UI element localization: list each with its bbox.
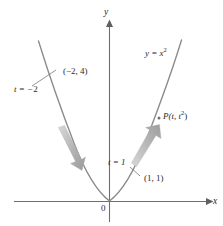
param-label-t-1: t = 1 [108, 158, 126, 167]
param-label-t-minus-2-text: t = − [14, 84, 33, 94]
figure-canvas [0, 0, 223, 226]
point-label-p-prefix: P(t, t [163, 111, 181, 121]
point-label-p: P(t, t2) [163, 112, 187, 121]
direction-arrow-right [132, 125, 162, 167]
y-axis [106, 20, 113, 223]
point-label-p-suffix: ) [184, 111, 187, 121]
parabola-figure: y x 0 y = x2 (−2, 4) t = −2 t = 1 (1, 1)… [0, 0, 223, 226]
point-marker-p [158, 117, 161, 120]
direction-arrow-left [59, 126, 86, 171]
point-label-1-1: (1, 1) [144, 174, 164, 183]
x-axis [14, 198, 214, 205]
curve-equation-exponent: 2 [164, 46, 167, 53]
point-label-minus2-4: (−2, 4) [63, 67, 88, 76]
param-label-t-minus-2-value: 2 [33, 84, 38, 94]
origin-label: 0 [101, 204, 106, 213]
param-label-t-1-text: t = 1 [108, 157, 126, 167]
x-axis-label: x [213, 197, 217, 207]
y-axis-label: y [104, 8, 108, 18]
curve-equation-label: y = x2 [145, 49, 167, 58]
curve-equation-text: y = x [145, 48, 164, 58]
param-label-t-minus-2: t = −2 [14, 85, 38, 94]
